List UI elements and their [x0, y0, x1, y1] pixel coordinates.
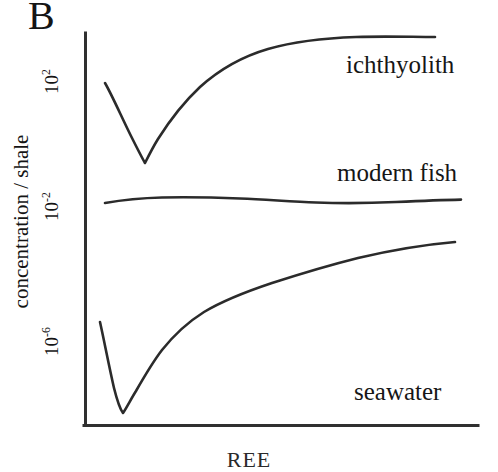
- curve-modern-fish: [105, 197, 461, 203]
- series-label-seawater: seawater: [354, 379, 441, 404]
- series-label-ichthyolith: ichthyolith: [346, 52, 454, 77]
- figure-panel-b: B concentration / shale 102 10-2 10-6 ic…: [0, 0, 498, 472]
- series-label-modern-fish: modern fish: [337, 160, 457, 185]
- x-axis-title: REE: [0, 449, 498, 471]
